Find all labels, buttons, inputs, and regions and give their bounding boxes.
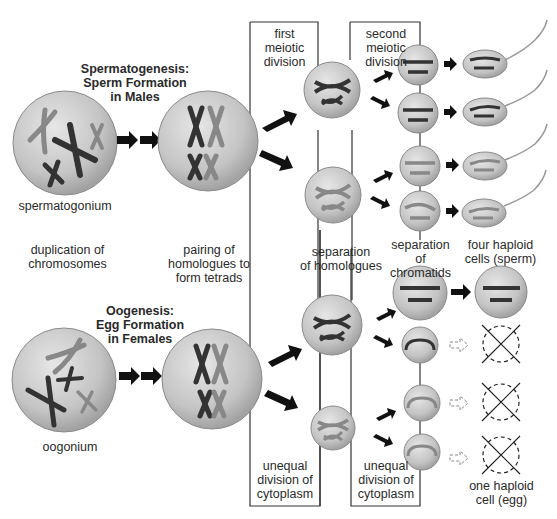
sperm-cells xyxy=(462,20,547,227)
second-division-cells-sperm xyxy=(398,45,440,231)
double-arrow-sperm xyxy=(117,131,161,149)
second-division-arrows-egg xyxy=(373,308,396,447)
polar-bodies-crossed xyxy=(482,325,520,474)
first-division-label: first meiotic division xyxy=(252,27,317,69)
pairing-label: pairing of homologues to form tetrads xyxy=(168,243,250,285)
oogonium-label: oogonium xyxy=(30,440,110,454)
duplication-label: duplication of chromosomes xyxy=(10,243,125,271)
split-arrows-egg xyxy=(264,345,302,411)
sperm-arrows xyxy=(444,57,459,218)
egg-arrow xyxy=(451,284,471,300)
unequal-division-2-label: unequal division of cytoplasm xyxy=(352,459,420,501)
four-haploid-label: four haploid cells (sperm) xyxy=(463,238,538,266)
second-division-label: second meiotic division xyxy=(352,27,420,69)
separation-chromatids-label: separation of chromatids xyxy=(383,238,458,280)
spermatogonium-cell xyxy=(13,91,117,195)
egg-cell xyxy=(475,266,527,318)
double-arrow-egg xyxy=(119,367,162,385)
oogenesis-title: Oogenesis: Egg Formation in Females xyxy=(95,304,185,346)
one-haploid-label: one haploid cell (egg) xyxy=(464,479,539,507)
spermatogenesis-title: Spermatogenesis: Sperm Formation in Male… xyxy=(80,62,190,104)
tetrad-cell-sperm xyxy=(158,91,258,191)
separation-homologues-label: separation of homologues xyxy=(296,245,386,273)
second-division-arrows-sperm xyxy=(370,70,393,209)
first-division-cells-egg xyxy=(302,295,362,450)
dashed-arrows xyxy=(450,338,468,465)
unequal-division-1-label: unequal division of cytoplasm xyxy=(251,459,319,501)
spermatogonium-label: spermatogonium xyxy=(10,199,120,213)
split-arrows-sperm xyxy=(259,110,297,171)
